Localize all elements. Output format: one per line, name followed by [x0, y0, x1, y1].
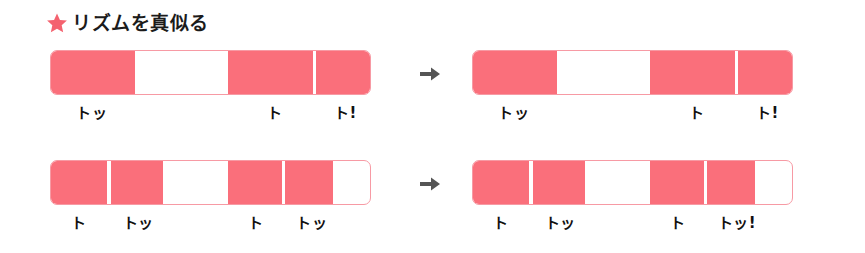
rhythm-label: トッ — [498, 101, 529, 122]
rhythm-segment — [316, 51, 370, 94]
rhythm-label: ト! — [756, 101, 779, 122]
rhythm-segment — [228, 161, 282, 204]
rhythm-segment — [111, 161, 163, 204]
rhythm-label: ト — [493, 211, 509, 232]
rhythm-label: トッ — [76, 101, 107, 122]
rhythm-label: ト — [248, 211, 264, 232]
rhythm-segment — [473, 51, 557, 94]
rhythm-segment — [228, 51, 313, 94]
arrow-right-icon — [418, 174, 442, 194]
rhythm-labels-row1-after: トットト! — [472, 101, 793, 127]
rhythm-row-2: トトットトッ トトットトッ! — [0, 160, 865, 238]
rhythm-segment — [650, 161, 704, 204]
rhythm-label: トッ — [545, 211, 576, 232]
rhythm-label: トッ! — [718, 211, 756, 232]
rhythm-segment — [473, 161, 529, 204]
rhythm-segment — [650, 51, 735, 94]
rhythm-label: ト — [670, 211, 686, 232]
rhythm-labels-row2-after: トトットトッ! — [472, 211, 793, 237]
rhythm-bar-row1-before[interactable] — [50, 50, 371, 95]
rhythm-group-row2-after: トトットトッ! — [472, 160, 793, 237]
rhythm-bar-row1-after[interactable] — [472, 50, 793, 95]
rhythm-label: ト — [267, 101, 283, 122]
rhythm-label: トッ — [296, 211, 327, 232]
rhythm-label: ト — [689, 101, 705, 122]
rhythm-row-1: トットト! トットト! — [0, 50, 865, 128]
rhythm-label: ト — [71, 211, 87, 232]
page-title-text: リズムを真似る — [72, 14, 209, 33]
rhythm-group-row1-after: トットト! — [472, 50, 793, 127]
rhythm-segment — [707, 161, 755, 204]
rhythm-label: ト! — [334, 101, 357, 122]
rhythm-labels-row2-before: トトットトッ — [50, 211, 371, 237]
arrow-right-icon — [418, 64, 442, 84]
rhythm-labels-row1-before: トットト! — [50, 101, 371, 127]
rhythm-label: トッ — [123, 211, 154, 232]
page-title: リズムを真似る — [46, 12, 209, 34]
rhythm-segment — [285, 161, 333, 204]
rhythm-bar-row2-before[interactable] — [50, 160, 371, 205]
star-icon — [46, 12, 68, 34]
rhythm-segment — [533, 161, 585, 204]
rhythm-segment — [738, 51, 792, 94]
rhythm-bar-row2-after[interactable] — [472, 160, 793, 205]
rhythm-group-row2-before: トトットトッ — [50, 160, 371, 237]
rhythm-group-row1-before: トットト! — [50, 50, 371, 127]
rhythm-segment — [51, 51, 135, 94]
rhythm-segment — [51, 161, 107, 204]
